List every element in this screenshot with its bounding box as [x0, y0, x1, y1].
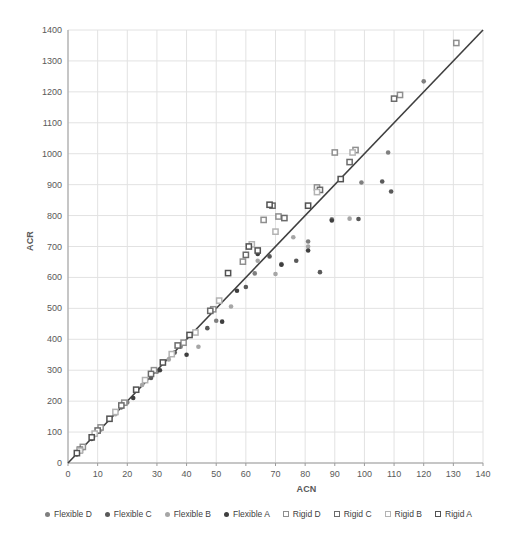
x-tick-label: 50	[211, 469, 221, 479]
data-point-flexible-a	[279, 262, 284, 267]
data-point-flexible-d	[306, 239, 311, 244]
y-axis-title: ACR	[25, 229, 35, 253]
legend-item-rigid-a: Rigid A	[435, 509, 472, 519]
data-point-rigid-d	[332, 150, 337, 155]
y-tick-label: 700	[47, 242, 62, 252]
data-point-rigid-a	[187, 332, 192, 337]
data-point-rigid-c	[175, 343, 180, 348]
legend-item-rigid-c: Rigid C	[334, 509, 372, 519]
y-tick-label: 800	[47, 211, 62, 221]
data-point-rigid-a	[306, 203, 311, 208]
data-point-flexible-d	[421, 79, 426, 84]
y-tick-label: 200	[47, 396, 62, 406]
x-tick-label: 90	[330, 469, 340, 479]
x-tick-label: 10	[93, 469, 103, 479]
data-point-rigid-c	[243, 252, 248, 257]
data-point-rigid-a	[267, 202, 272, 207]
data-point-rigid-b	[193, 330, 198, 335]
legend-label: Flexible D	[54, 509, 92, 519]
chart-legend: Flexible DFlexible CFlexible BFlexible A…	[0, 509, 517, 519]
data-point-rigid-a	[160, 360, 165, 365]
data-point-rigid-c	[282, 215, 287, 220]
legend-item-flexible-a: Flexible A	[224, 509, 270, 519]
y-tick-label: 1200	[42, 87, 62, 97]
legend-item-flexible-b: Flexible B	[165, 509, 211, 519]
data-point-rigid-c	[208, 308, 213, 313]
data-point-flexible-d	[214, 318, 219, 323]
data-point-rigid-b	[273, 229, 278, 234]
data-point-rigid-c	[347, 159, 352, 164]
legend-marker-circle-icon	[45, 512, 50, 517]
y-tick-label: 400	[47, 334, 62, 344]
legend-marker-square-icon	[385, 511, 391, 517]
legend-label: Rigid C	[344, 509, 372, 519]
x-tick-label: 0	[65, 469, 70, 479]
y-tick-label: 1300	[42, 56, 62, 66]
data-point-flexible-d	[386, 150, 391, 155]
data-point-rigid-a	[225, 270, 230, 275]
legend-label: Flexible A	[233, 509, 270, 519]
data-point-rigid-a	[89, 435, 94, 440]
data-point-flexible-a	[131, 396, 136, 401]
legend-marker-square-icon	[283, 511, 289, 517]
data-point-flexible-c	[205, 326, 210, 331]
data-point-rigid-a	[74, 451, 79, 456]
data-point-rigid-a	[134, 387, 139, 392]
data-point-rigid-b	[113, 409, 118, 414]
legend-marker-circle-icon	[105, 512, 110, 517]
data-point-rigid-d	[397, 92, 402, 97]
data-point-flexible-c	[380, 179, 385, 184]
x-tick-label: 20	[122, 469, 132, 479]
y-tick-label: 1000	[42, 149, 62, 159]
legend-label: Flexible B	[174, 509, 211, 519]
x-tick-label: 70	[270, 469, 280, 479]
data-point-rigid-c	[148, 371, 153, 376]
data-point-flexible-a	[158, 368, 163, 373]
x-axis-title: ACN	[0, 484, 517, 494]
acn-acr-scatter-figure: 0100200300400500600700800900100011001200…	[0, 0, 517, 538]
legend-marker-circle-icon	[224, 512, 229, 517]
data-point-flexible-b	[291, 235, 296, 240]
y-tick-label: 100	[47, 427, 62, 437]
data-point-rigid-d	[276, 214, 281, 219]
data-point-flexible-b	[196, 344, 201, 349]
data-point-flexible-a	[220, 319, 225, 324]
data-point-rigid-d	[261, 217, 266, 222]
data-point-rigid-a	[246, 244, 251, 249]
data-point-flexible-a	[306, 248, 311, 253]
data-point-flexible-b	[347, 216, 352, 221]
data-point-rigid-c	[391, 96, 396, 101]
x-tick-label: 120	[416, 469, 431, 479]
data-point-rigid-a	[338, 176, 343, 181]
data-point-rigid-d	[454, 40, 459, 45]
y-tick-label: 500	[47, 303, 62, 313]
x-tick-label: 110	[387, 469, 401, 479]
data-point-rigid-c	[119, 403, 124, 408]
data-point-flexible-b	[229, 304, 234, 309]
data-point-rigid-d	[181, 340, 186, 345]
data-point-rigid-b	[350, 150, 355, 155]
data-point-flexible-c	[318, 270, 323, 275]
data-point-flexible-d	[359, 180, 364, 185]
y-tick-label: 300	[47, 365, 62, 375]
data-point-rigid-b	[169, 352, 174, 357]
y-tick-label: 600	[47, 272, 62, 282]
data-point-flexible-c	[244, 285, 249, 290]
legend-item-rigid-d: Rigid D	[283, 509, 321, 519]
legend-marker-circle-icon	[165, 512, 170, 517]
data-point-flexible-c	[294, 258, 299, 263]
legend-label: Flexible C	[114, 509, 152, 519]
data-point-flexible-b	[306, 244, 311, 249]
legend-label: Rigid A	[445, 509, 472, 519]
legend-label: Rigid D	[293, 509, 321, 519]
y-tick-label: 1400	[42, 25, 62, 35]
data-point-rigid-b	[314, 189, 319, 194]
data-point-flexible-c	[389, 189, 394, 194]
legend-item-rigid-b: Rigid B	[385, 509, 422, 519]
data-point-rigid-b	[217, 298, 222, 303]
data-point-rigid-b	[142, 378, 147, 383]
data-point-flexible-b	[166, 357, 171, 362]
data-point-flexible-a	[330, 218, 335, 223]
x-tick-label: 130	[446, 469, 461, 479]
y-tick-label: 900	[47, 180, 62, 190]
